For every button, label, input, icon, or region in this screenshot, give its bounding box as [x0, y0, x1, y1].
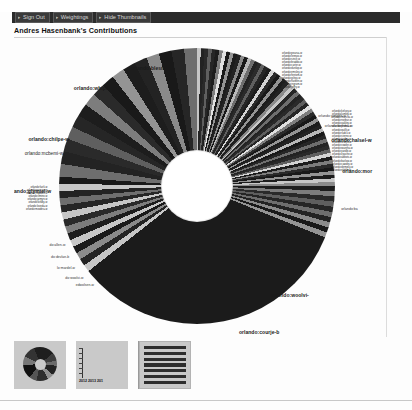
wheel-slice-label: orlando:elphin-w — [332, 169, 353, 172]
thumbnail-axis-ticks — [79, 348, 84, 378]
hide-thumbnails-button[interactable]: ▸ Hide Thumbnails — [96, 12, 151, 23]
hide-thumbnails-label: Hide Thumbnails — [104, 13, 146, 22]
wheel-slice-label: do:allen-w — [49, 243, 65, 247]
wheel-slice-label: orlando:woolvi- — [271, 292, 309, 298]
thumbnail-pie-hub — [35, 359, 46, 370]
sign-out-label: Sign Out — [23, 13, 45, 22]
wheel-slice-label: orlando:courje-b — [239, 329, 280, 335]
thumbnail-pie-chart[interactable] — [14, 341, 66, 389]
wheel-slice-label: orlando:ba — [341, 207, 358, 211]
sign-out-button[interactable]: ▸ Sign Out — [15, 12, 50, 23]
thumbnail-bar-chart[interactable]: 2012 2013 201 — [76, 341, 128, 389]
wheel-label-cloud: orlando:kelsey-worlando:lumley-worlando:… — [332, 110, 353, 172]
chevron-right-icon: ▸ — [56, 13, 59, 22]
wheel-center-hub — [162, 151, 232, 221]
thumbnail-year-labels: 2012 2013 201 — [79, 379, 103, 383]
wheel-slice-label: edwolsen-w — [76, 283, 94, 287]
window-top-margin — [0, 0, 412, 12]
weightings-label: Weightings — [61, 13, 89, 22]
window-bottom-divider — [0, 400, 412, 401]
application-window: ▸ Sign Out ▸ Weightings ▸ Hide Thumbnail… — [0, 0, 412, 410]
wheel-slice-label: do:devlan-b — [51, 255, 69, 259]
chevron-right-icon: ▸ — [100, 13, 103, 22]
wheel-slice-label: orlando:jeffry-w — [282, 86, 302, 89]
thumbnail-strip[interactable]: 2012 2013 201 — [14, 341, 201, 393]
wheel-label-cloud: orlando:fairli-worlando:gascoy-worlando:… — [26, 186, 47, 211]
page-title: Andres Hasenbank's Contributions — [14, 26, 137, 35]
weightings-button[interactable]: ▸ Weightings — [53, 12, 94, 23]
contribution-wheel-chart[interactable]: orlando:blesma-worlando:whipdo-worlando:… — [14, 38, 400, 338]
main-toolbar: ▸ Sign Out ▸ Weightings ▸ Hide Thumbnail… — [12, 12, 400, 23]
thumbnail-frame — [139, 341, 191, 389]
wheel-slice-label: orlando:mowbra-w — [26, 208, 47, 211]
wheel-slice-label: orlando:mcbemi-w — [25, 150, 63, 155]
thumbnail-hbar-chart[interactable] — [138, 341, 191, 389]
wheel-slice-label: lo:mardel-w — [57, 266, 75, 270]
wheel-slice-label: do:woolvi-w — [65, 276, 83, 280]
wheel-slice-label: orlando:blesma-w — [131, 65, 175, 71]
wheel-slice-label: orlando:whipdo-w — [74, 85, 118, 91]
wheel-label-cloud: orlando:pearsa-worlando:lennox-worlando:… — [282, 52, 302, 89]
chevron-right-icon: ▸ — [18, 13, 21, 22]
wheel-slice-label: orlando:chilpe-w — [28, 136, 69, 142]
